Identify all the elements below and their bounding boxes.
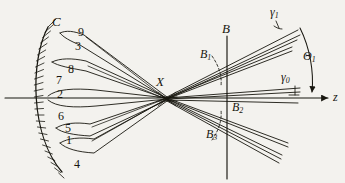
mirror-label: C: [52, 15, 61, 28]
ray-number-6: 6: [58, 110, 64, 122]
crossing-point-label: X: [156, 75, 164, 88]
theta1-base: Θ: [303, 49, 312, 63]
gamma1-label: γ1: [270, 6, 279, 20]
ray-number-3: 3: [75, 40, 81, 52]
b2-label: B2: [232, 101, 243, 115]
theta1-label: Θ1: [303, 50, 316, 64]
ray-bundle-upper: [60, 30, 300, 99]
gamma1-subscript: 1: [275, 11, 279, 20]
ray-number-4: 4: [74, 158, 80, 170]
figure-canvas: C X B B1 B2 B3 γ1 γ0 Θ1 z 938726514: [0, 0, 345, 183]
ray-number-7: 7: [56, 74, 62, 86]
z-axis-label: z: [333, 91, 338, 103]
plane-b-label: B: [222, 22, 230, 35]
b1-subscript: 1: [207, 53, 211, 62]
gamma0-subscript: 0: [286, 76, 290, 85]
b3-label: B3: [206, 128, 217, 142]
ray-bundle-lower: [56, 98, 288, 147]
b3-subscript: 3: [213, 133, 217, 142]
theta1-subscript: 1: [312, 55, 316, 64]
gamma1-angle-mark: [274, 21, 282, 29]
ray-number-9: 9: [78, 26, 84, 38]
ray-number-1: 1: [66, 134, 72, 146]
gamma0-angle-mark: [289, 86, 299, 95]
crossing-knot: [86, 37, 177, 141]
b1-label: B1: [200, 48, 211, 62]
gamma0-label: γ0: [281, 71, 290, 85]
b2-subscript: 2: [239, 106, 243, 115]
ray-number-2: 2: [57, 88, 63, 100]
ray-number-8: 8: [68, 63, 74, 75]
